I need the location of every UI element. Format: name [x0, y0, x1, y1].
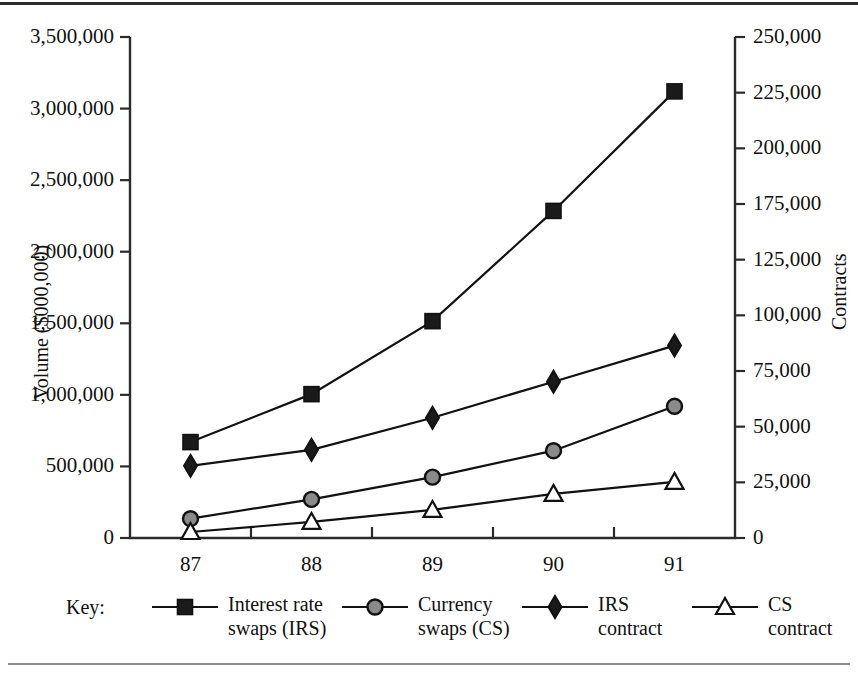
legend-marker-open-diamond-icon [520, 594, 590, 620]
legend-label-line2: contract [598, 616, 662, 640]
legend-label-2: IRScontract [598, 592, 662, 640]
data-point [304, 387, 319, 402]
y2-tick-label: 125,000 [753, 249, 821, 270]
legend-label-line2: swaps (IRS) [228, 616, 326, 640]
y-tick-label: 0 [104, 527, 115, 548]
y-tick-label: 2,500,000 [30, 169, 114, 190]
legend-key-label: Key: [66, 596, 105, 619]
y2-tick-label: 175,000 [753, 193, 821, 214]
data-point [666, 473, 684, 489]
data-point [667, 399, 682, 414]
data-point [305, 439, 318, 461]
y2-tick-label: 50,000 [753, 416, 811, 437]
x-tick-label: 87 [151, 554, 231, 575]
legend-marker-open-circle-icon [340, 594, 410, 620]
data-point [667, 84, 682, 99]
data-point [546, 203, 561, 218]
y2-tick-label: 225,000 [753, 82, 821, 103]
y2-tick-label: 200,000 [753, 137, 821, 158]
x-tick-label: 89 [393, 554, 473, 575]
y-tick-label: 1,500,000 [30, 312, 114, 333]
x-tick-label: 90 [514, 554, 594, 575]
data-point [426, 407, 439, 429]
series-0 [183, 84, 682, 450]
legend-label-line2: swaps (CS) [418, 616, 510, 640]
y2-tick-label: 0 [753, 527, 764, 548]
data-point [547, 371, 560, 393]
legend-label-line1: Interest rate [228, 593, 323, 615]
data-point [184, 455, 197, 477]
series-2 [184, 335, 681, 477]
legend-marker-open-triangle-icon [690, 594, 760, 620]
y2-tick-label: 100,000 [753, 304, 821, 325]
data-point [425, 314, 440, 329]
y-tick-label: 1,000,000 [30, 384, 114, 405]
legend-label-line2: contract [768, 616, 832, 640]
legend-label-0: Interest rateswaps (IRS) [228, 592, 326, 640]
y-tick-label: 3,000,000 [30, 98, 114, 119]
legend-label-3: CScontract [768, 592, 832, 640]
x-tick-label: 91 [635, 554, 715, 575]
y-tick-label: 2,000,000 [30, 241, 114, 262]
legend-label-1: Currencyswaps (CS) [418, 592, 510, 640]
y2-tick-label: 75,000 [753, 360, 811, 381]
chart-legend: Key: Interest rateswaps (IRS)Currencyswa… [0, 592, 858, 654]
chart-plot-area: Volume ($000,000) Contracts 0500,0001,00… [0, 0, 858, 600]
bottom-rule [8, 663, 850, 665]
data-point [668, 335, 681, 357]
data-point [183, 435, 198, 450]
legend-marker-filled-square-icon [150, 594, 220, 620]
chart-svg [0, 0, 858, 600]
legend-label-line1: IRS [598, 593, 629, 615]
y2-tick-label: 250,000 [753, 26, 821, 47]
data-point [304, 492, 319, 507]
legend-label-line1: Currency [418, 593, 492, 615]
y2-axis-title: Contracts [828, 253, 851, 330]
data-point [546, 443, 561, 458]
y2-tick-label: 25,000 [753, 471, 811, 492]
legend-label-line1: CS [768, 593, 792, 615]
figure-container: Volume ($000,000) Contracts 0500,0001,00… [0, 0, 858, 676]
y-tick-label: 3,500,000 [30, 26, 114, 47]
x-tick-label: 88 [272, 554, 352, 575]
data-point [425, 470, 440, 485]
y-tick-label: 500,000 [46, 455, 114, 476]
